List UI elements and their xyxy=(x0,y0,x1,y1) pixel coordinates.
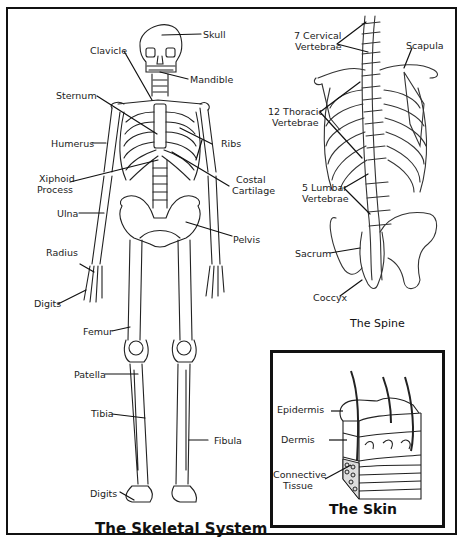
label-patella: Patella xyxy=(74,369,106,380)
label-sacrum: Sacrum xyxy=(295,248,331,259)
label-thoracic-line1: 12 Thoracic xyxy=(268,106,324,117)
spine-title: The Spine xyxy=(350,317,405,330)
label-humerus: Humerus xyxy=(51,138,94,149)
label-digits-hand: Digits xyxy=(34,298,61,309)
label-sternum: Sternum xyxy=(56,90,97,101)
label-tibia: Tibia xyxy=(91,408,114,419)
skin-title: The Skin xyxy=(329,501,397,517)
label-costal-line2: Cartilage xyxy=(232,185,275,196)
label-lumbar-line2: Vertebrae xyxy=(302,193,349,204)
label-cervical-line1: 7 Cervical xyxy=(294,30,341,41)
label-xiphoid-line1: Xiphoid xyxy=(39,173,75,184)
label-cervical-line2: Vertebrae xyxy=(295,41,342,52)
label-pelvis: Pelvis xyxy=(233,234,260,245)
label-femur: Femur xyxy=(83,326,113,337)
label-fibula: Fibula xyxy=(214,435,242,446)
label-ribs: Ribs xyxy=(221,138,241,149)
skin-panel: Epidermis Dermis Connective Tissue The S… xyxy=(270,350,445,528)
skeleton-figure-icon xyxy=(84,25,224,502)
skeletal-system-title: The Skeletal System xyxy=(95,520,267,538)
label-radius: Radius xyxy=(46,247,78,258)
label-connective-line1: Connective xyxy=(273,469,326,480)
label-thoracic-line2: Vertebrae xyxy=(272,117,319,128)
label-clavicle: Clavicle xyxy=(90,45,127,56)
label-lumbar-line1: 5 Lumbar xyxy=(302,182,347,193)
label-dermis: Dermis xyxy=(281,434,315,445)
spine-figure-icon xyxy=(314,16,437,289)
label-ulna: Ulna xyxy=(57,208,78,219)
label-xiphoid-line2: Process xyxy=(37,184,73,195)
label-digits-foot: Digits xyxy=(90,488,117,499)
label-coccyx: Coccyx xyxy=(313,292,347,303)
label-costal-line1: Costal xyxy=(236,174,266,185)
label-epidermis: Epidermis xyxy=(277,404,324,415)
label-skull: Skull xyxy=(203,29,226,40)
label-connective-line2: Tissue xyxy=(283,480,313,491)
label-scapula: Scapula xyxy=(406,40,444,51)
label-mandible: Mandible xyxy=(190,74,233,85)
